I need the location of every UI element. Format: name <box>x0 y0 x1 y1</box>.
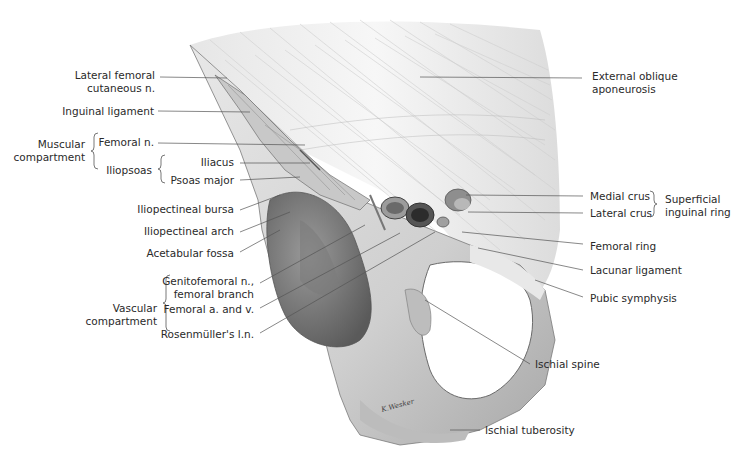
label-ischial-spine: Ischial spine <box>535 358 600 371</box>
label-femoral-n: Femoral n. <box>98 136 154 149</box>
label-line-2: compartment <box>86 315 157 328</box>
label-line-2: femoral branch <box>162 288 254 301</box>
label-lateral-femoral-cutaneous-n: Lateral femoral cutaneous n. <box>75 69 155 95</box>
label-iliacus: Iliacus <box>201 156 234 169</box>
label-lateral-crus: Lateral crus <box>590 207 652 220</box>
label-rosenmullers-ln: Rosenmüller's l.n. <box>161 328 254 341</box>
label-line-1: Vascular <box>86 302 157 315</box>
label-femoral-ring: Femoral ring <box>590 240 656 253</box>
label-line-2: cutaneous n. <box>75 82 155 95</box>
label-line-1: External oblique <box>592 70 678 83</box>
label-vascular-compartment: Vascular compartment <box>86 302 157 328</box>
label-psoas-major: Psoas major <box>170 174 234 187</box>
superficial-inguinal-ring <box>445 189 471 211</box>
label-line-1: Muscular <box>14 138 85 151</box>
label-ischial-tuberosity: Ischial tuberosity <box>485 424 575 437</box>
label-iliopectineal-arch: Iliopectineal arch <box>144 225 234 238</box>
label-femoral-a-and-v: Femoral a. and v. <box>163 303 254 316</box>
label-superficial-inguinal-ring: Superficial inguinal ring <box>665 193 731 219</box>
label-line-2: compartment <box>14 151 85 164</box>
label-line-2: aponeurosis <box>592 83 678 96</box>
label-genitofemoral-n-femoral-branch: Genitofemoral n., femoral branch <box>162 275 254 301</box>
label-inguinal-ligament: Inguinal ligament <box>62 105 154 118</box>
label-medial-crus: Medial crus <box>590 190 650 203</box>
label-iliopsoas: Iliopsoas <box>106 164 152 177</box>
label-line-1: Genitofemoral n., <box>162 275 254 288</box>
label-external-oblique-aponeurosis: External oblique aponeurosis <box>592 70 678 96</box>
label-pubic-symphysis: Pubic symphysis <box>590 292 677 305</box>
label-line-1: Lateral femoral <box>75 69 155 82</box>
label-muscular-compartment: Muscular compartment <box>14 138 85 164</box>
label-line-1: Superficial <box>665 193 731 206</box>
label-line-2: inguinal ring <box>665 206 731 219</box>
label-lacunar-ligament: Lacunar ligament <box>590 264 682 277</box>
label-acetabular-fossa: Acetabular fossa <box>146 247 234 260</box>
label-iliopectineal-bursa: Iliopectineal bursa <box>137 203 234 216</box>
